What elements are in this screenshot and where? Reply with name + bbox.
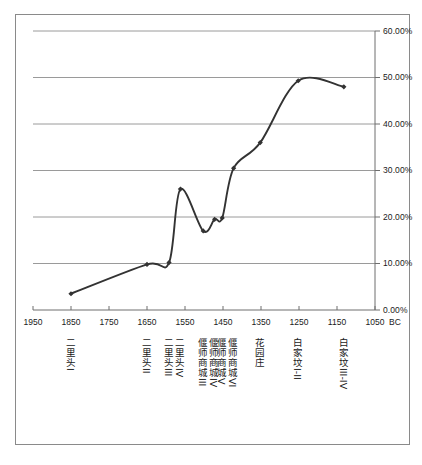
data-point-marker <box>68 291 73 296</box>
y-axis-tick-label: 20.00% <box>383 212 412 222</box>
data-series-line <box>71 78 344 294</box>
x-axis-ticks-group <box>33 306 375 310</box>
category-label: 二里头IV <box>174 338 184 377</box>
chart-container: 0.00%10.00%20.00%30.00%40.00%50.00%60.00… <box>0 0 422 465</box>
chart-plot-svg <box>0 0 422 465</box>
category-label-chinese: 二里头 <box>141 338 152 368</box>
x-axis-tick-label: 1850 <box>51 317 91 327</box>
category-label: 偃师商城III <box>197 338 207 386</box>
y-axis-tick-label: 60.00% <box>383 26 412 36</box>
category-label: 白家坟I-II <box>292 338 302 380</box>
category-label-chinese: 偃师商城 <box>216 338 227 378</box>
x-axis-tick-label: 1550 <box>165 317 205 327</box>
y-axis-ticks-group <box>375 31 380 310</box>
category-label-numeral: III <box>163 368 174 376</box>
category-label-chinese: 偃师商城 <box>227 338 238 378</box>
y-axis-tick-label: 10.00% <box>383 258 412 268</box>
x-axis-tick-label: 1450 <box>203 317 243 327</box>
category-label: 二里头III <box>163 338 173 376</box>
category-label-chinese: 二里头 <box>174 338 185 368</box>
y-axis-tick-label: 50.00% <box>383 72 412 82</box>
y-axis-tick-label: 40.00% <box>383 119 412 129</box>
x-axis-unit-label: BC <box>389 317 401 327</box>
category-label-numeral: III-IV <box>338 368 349 389</box>
x-axis-tick-label: 1150 <box>317 317 357 327</box>
category-label: 白家坟III-IV <box>338 338 348 389</box>
x-axis-tick-label: 1750 <box>89 317 129 327</box>
category-label-chinese: 二里头 <box>163 338 174 368</box>
category-label-chinese: 白家坟 <box>292 338 303 368</box>
x-axis-tick-label: 1650 <box>127 317 167 327</box>
category-label: 二里头I <box>65 338 75 371</box>
y-axis-tick-label: 0.00% <box>383 305 408 315</box>
category-label: 花园庄 <box>254 338 264 368</box>
category-label-chinese: 二里头 <box>65 338 76 368</box>
data-point-marker <box>341 84 346 89</box>
category-label: 偃师商城VI <box>228 338 238 387</box>
category-label-numeral: I-II <box>292 368 303 380</box>
x-axis-tick-label: 1250 <box>279 317 319 327</box>
category-label-chinese: 偃师商城 <box>197 338 208 378</box>
x-axis-tick-label: 1950 <box>13 317 53 327</box>
category-label-chinese: 白家坟 <box>338 338 349 368</box>
category-label-numeral: III <box>197 378 208 386</box>
category-label: 偃师商城V <box>216 338 226 385</box>
category-label-numeral: II <box>141 368 152 374</box>
category-label-numeral: I <box>65 368 76 371</box>
y-axis-tick-label: 30.00% <box>383 165 412 175</box>
x-axis-tick-label: 1350 <box>241 317 281 327</box>
category-label-numeral: VI <box>227 378 238 387</box>
data-point-marker <box>144 262 149 267</box>
category-label-numeral: IV <box>174 368 185 377</box>
category-label-numeral: V <box>216 378 227 385</box>
category-label: 二里头II <box>141 338 151 374</box>
gridlines-group <box>33 31 375 264</box>
